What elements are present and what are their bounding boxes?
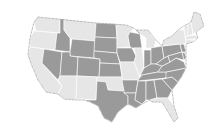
- state-co: [77, 57, 100, 77]
- state-or: [30, 31, 57, 50]
- state-wa: [34, 17, 60, 33]
- state-ia: [117, 48, 136, 62]
- state-nd: [95, 23, 117, 38]
- state-vt: [184, 25, 188, 36]
- state-wy: [70, 39, 95, 58]
- us-choropleth-map: [0, 0, 220, 137]
- states-layer: [28, 12, 204, 122]
- state-sd: [94, 37, 117, 53]
- state-nm: [76, 76, 97, 100]
- state-wi: [128, 32, 142, 48]
- state-ar: [122, 80, 138, 93]
- state-ny: [162, 30, 186, 46]
- state-ks: [99, 63, 122, 77]
- state-me: [191, 12, 204, 34]
